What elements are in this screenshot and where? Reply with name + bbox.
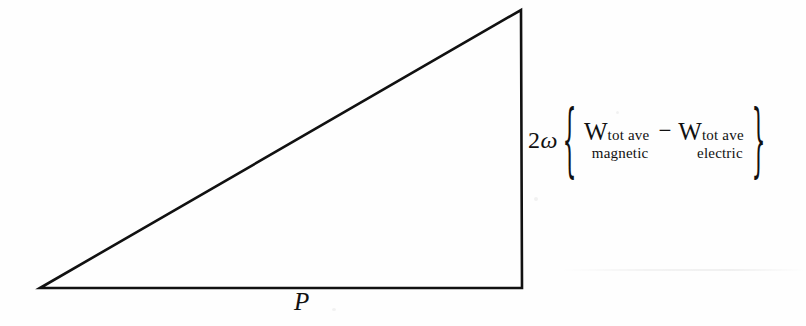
electric-energy-term: Wtot ave electric: [678, 119, 743, 161]
close-brace-icon: }: [750, 100, 766, 180]
right-triangle: [0, 0, 806, 326]
electric-energy-subscript-2: electric: [678, 146, 743, 162]
figure-canvas: P 2ω { Wtot ave magnetic − Wtot ave elec…: [0, 0, 806, 326]
vertical-leg-label: 2ω { Wtot ave magnetic − Wtot ave electr…: [528, 119, 767, 161]
electric-energy-symbol: W: [678, 118, 702, 145]
coefficient-number: 2: [528, 127, 541, 153]
magnetic-energy-subscript-2: magnetic: [584, 146, 649, 162]
magnetic-energy-term: Wtot ave magnetic: [584, 119, 649, 161]
horizontal-leg-label: P: [294, 289, 310, 314]
magnetic-energy-subscript-1: tot ave: [608, 127, 650, 143]
omega-symbol: ω: [541, 127, 558, 153]
energy-difference-expression: Wtot ave magnetic − Wtot ave electric: [582, 119, 746, 161]
electric-energy-subscript-1: tot ave: [702, 127, 744, 143]
coefficient: 2ω: [528, 127, 558, 154]
open-brace-icon: {: [562, 100, 578, 180]
triangle-outline: [40, 10, 522, 288]
magnetic-energy-symbol: W: [584, 118, 608, 145]
minus-operator: −: [658, 119, 671, 142]
electric-energy-main: Wtot ave: [678, 119, 743, 145]
magnetic-energy-main: Wtot ave: [584, 119, 649, 145]
